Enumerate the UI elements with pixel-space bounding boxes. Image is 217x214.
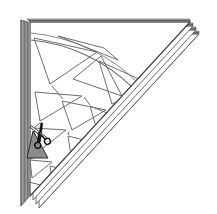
figure-canvas xyxy=(0,0,217,214)
folded-paper-figure: Folded paper cutting diagram Stack of fo… xyxy=(0,0,217,214)
fold-edge xyxy=(21,20,28,206)
sheet-1-top xyxy=(27,19,190,196)
